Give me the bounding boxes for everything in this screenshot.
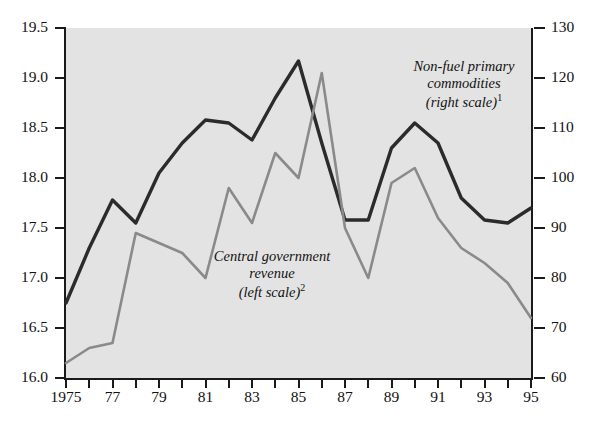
x-axis-tick	[298, 380, 300, 388]
x-axis-tick	[251, 380, 253, 388]
x-axis-tick	[507, 380, 509, 388]
x-axis-tick-label: 87	[337, 388, 353, 406]
y-axis-right-tick	[534, 377, 545, 379]
y-axis-left-tick	[55, 127, 66, 129]
y-axis-right-tick-label: 80	[551, 268, 567, 286]
annot-left-line2: revenue	[249, 265, 294, 281]
y-axis-right-tick-label: 120	[551, 68, 574, 86]
y-axis-left-tick	[55, 377, 66, 379]
x-axis-tick-label: 95	[523, 388, 539, 406]
y-axis-right-tick-label: 90	[551, 218, 567, 236]
x-axis-tick	[181, 380, 183, 388]
x-axis-tick-label: 89	[384, 388, 400, 406]
x-axis-tick-label: 79	[151, 388, 167, 406]
y-axis-right-tick-label: 70	[551, 318, 567, 336]
x-axis-tick	[112, 380, 114, 388]
x-axis-tick	[158, 380, 160, 388]
x-axis-tick	[484, 380, 486, 388]
x-axis-tick-label: 85	[291, 388, 307, 406]
x-axis-tick	[274, 380, 276, 388]
y-axis-right-tick-label: 110	[551, 118, 574, 136]
x-axis-tick	[228, 380, 230, 388]
x-axis-tick	[321, 380, 323, 388]
annot-right-line2: commodities	[427, 75, 500, 91]
x-axis-tick-label: 81	[198, 388, 214, 406]
y-axis-left-tick	[55, 277, 66, 279]
x-axis-tick	[530, 380, 532, 388]
chart-figure: Non-fuel primary commodities (right scal…	[0, 0, 610, 422]
y-axis-left-tick-label: 19.5	[21, 18, 48, 36]
y-axis-right-tick-label: 60	[551, 368, 567, 386]
y-axis-right-tick	[534, 177, 545, 179]
x-axis-tick-label: 91	[430, 388, 446, 406]
x-axis-tick	[205, 380, 207, 388]
y-axis-left-tick	[55, 177, 66, 179]
y-axis-left-tick	[55, 227, 66, 229]
y-axis-right-tick-label: 100	[551, 168, 574, 186]
y-axis-left-tick	[55, 27, 66, 29]
x-axis-tick	[414, 380, 416, 388]
y-axis-left-tick-label: 18.0	[21, 168, 48, 186]
x-axis-tick	[367, 380, 369, 388]
y-axis-right-tick	[534, 27, 545, 29]
y-axis-right-tick	[534, 227, 545, 229]
annot-left-line1: Central government	[214, 248, 330, 264]
annot-right-footnote: 1	[497, 92, 502, 103]
y-axis-right-tick	[534, 277, 545, 279]
x-axis-tick	[88, 380, 90, 388]
y-axis-left-tick-label: 16.5	[21, 318, 48, 336]
y-axis-right-tick-label: 130	[551, 18, 574, 36]
y-axis-left-tick	[55, 77, 66, 79]
x-axis-tick	[344, 380, 346, 388]
x-axis-tick-label: 93	[477, 388, 493, 406]
annotation-non-fuel-primary-commodities: Non-fuel primary commodities (right scal…	[384, 58, 544, 111]
x-axis-tick	[65, 380, 67, 388]
x-axis-tick	[437, 380, 439, 388]
x-axis-tick-label: 83	[244, 388, 260, 406]
y-axis-left-tick-label: 19.0	[21, 68, 48, 86]
annot-left-line3: (left scale)	[239, 284, 301, 300]
x-axis-tick	[391, 380, 393, 388]
y-axis-right-tick	[534, 327, 545, 329]
y-axis-left-tick-label: 16.0	[21, 368, 48, 386]
line-non-fuel-primary-commodities	[66, 73, 531, 363]
y-axis-right-tick	[534, 127, 545, 129]
y-axis-left-tick-label: 17.0	[21, 268, 48, 286]
y-axis-left-tick-label: 18.5	[21, 118, 48, 136]
y-axis-right-tick	[534, 77, 545, 79]
x-axis-tick-label: 1975	[51, 388, 82, 406]
y-axis-left-tick	[55, 327, 66, 329]
y-axis-left-tick-label: 17.5	[21, 218, 48, 236]
annot-right-line1: Non-fuel primary	[413, 58, 514, 74]
x-axis-tick	[135, 380, 137, 388]
x-axis-tick	[460, 380, 462, 388]
annotation-central-government-revenue: Central government revenue (left scale)2	[188, 248, 356, 301]
x-axis-tick-label: 77	[105, 388, 121, 406]
annot-left-footnote: 2	[300, 282, 305, 293]
annot-right-line3: (right scale)	[426, 94, 497, 110]
